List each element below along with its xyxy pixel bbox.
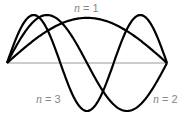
label-n3-eq: = 3 — [42, 93, 61, 105]
label-n2-eq: = 2 — [159, 93, 178, 105]
label-n1: n = 1 — [74, 2, 99, 14]
label-n3: n = 3 — [36, 93, 61, 105]
label-n1-eq: = 1 — [80, 2, 99, 14]
label-n2: n = 2 — [153, 93, 178, 105]
